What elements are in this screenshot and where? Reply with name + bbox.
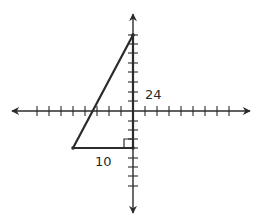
- right-angle-marker: [124, 139, 133, 148]
- vertex-bottom-left: [71, 146, 75, 150]
- right-triangle: [71, 33, 135, 150]
- horizontal-leg-length-label: 10: [95, 155, 112, 168]
- coordinate-plane-diagram: [0, 0, 259, 221]
- triangle-hypotenuse: [73, 35, 133, 148]
- vertex-top: [131, 33, 135, 37]
- vertex-right-angle: [131, 146, 135, 150]
- vertical-leg-length-label: 24: [145, 88, 162, 101]
